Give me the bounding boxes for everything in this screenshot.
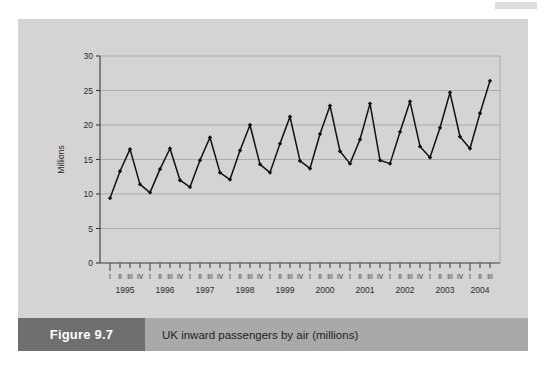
svg-text:I: I	[229, 273, 231, 280]
figure-caption-text-wrap: UK inward passengers by air (millions)	[145, 318, 528, 351]
svg-text:I: I	[389, 273, 391, 280]
svg-text:II: II	[158, 273, 162, 280]
svg-text:I: I	[469, 273, 471, 280]
svg-text:III: III	[327, 273, 333, 280]
svg-text:III: III	[487, 273, 493, 280]
line-chart: 051015202530 IIIIIIIVIIIIIIIVIIIIIIIVIII…	[18, 19, 528, 318]
svg-text:15: 15	[84, 155, 94, 165]
figure-number-block: Figure 9.7	[18, 318, 145, 351]
svg-text:III: III	[287, 273, 293, 280]
scan-artifact	[495, 2, 537, 9]
svg-text:IV: IV	[177, 273, 184, 280]
svg-text:1995: 1995	[116, 285, 135, 295]
figure-caption-bar: Figure 9.7 UK inward passengers by air (…	[18, 318, 528, 351]
x-axis: IIIIIIIVIIIIIIIVIIIIIIIVIIIIIIIVIIIIIIIV…	[100, 263, 500, 295]
svg-text:2003: 2003	[436, 285, 455, 295]
svg-text:III: III	[167, 273, 173, 280]
svg-text:1998: 1998	[236, 285, 255, 295]
svg-text:III: III	[367, 273, 373, 280]
data-series-line	[110, 81, 490, 198]
svg-text:5: 5	[88, 224, 93, 234]
y-axis: 051015202530	[84, 51, 100, 268]
svg-text:II: II	[118, 273, 122, 280]
svg-text:25: 25	[84, 86, 94, 96]
svg-text:III: III	[127, 273, 133, 280]
svg-text:IV: IV	[297, 273, 304, 280]
svg-text:I: I	[109, 273, 111, 280]
figure-number-label: Figure 9.7	[50, 327, 113, 342]
svg-text:10: 10	[84, 189, 94, 199]
svg-text:20: 20	[84, 120, 94, 130]
svg-text:III: III	[407, 273, 413, 280]
svg-text:II: II	[278, 273, 282, 280]
svg-text:IV: IV	[377, 273, 384, 280]
svg-text:IV: IV	[137, 273, 144, 280]
svg-text:IV: IV	[337, 273, 344, 280]
svg-text:2004: 2004	[471, 285, 490, 295]
gridlines	[100, 56, 500, 229]
svg-text:IV: IV	[217, 273, 224, 280]
svg-text:II: II	[438, 273, 442, 280]
figure-panel: 051015202530 IIIIIIIVIIIIIIIVIIIIIIIVIII…	[18, 19, 528, 351]
svg-text:IV: IV	[457, 273, 464, 280]
svg-text:I: I	[189, 273, 191, 280]
svg-text:1999: 1999	[276, 285, 295, 295]
svg-text:II: II	[238, 273, 242, 280]
svg-text:I: I	[309, 273, 311, 280]
figure-caption-text: UK inward passengers by air (millions)	[162, 329, 358, 341]
data-point-markers	[108, 79, 492, 201]
svg-text:II: II	[478, 273, 482, 280]
svg-text:I: I	[149, 273, 151, 280]
svg-text:II: II	[358, 273, 362, 280]
svg-text:2002: 2002	[396, 285, 415, 295]
svg-text:III: III	[247, 273, 253, 280]
svg-text:1996: 1996	[156, 285, 175, 295]
svg-text:2001: 2001	[356, 285, 375, 295]
svg-text:II: II	[398, 273, 402, 280]
svg-text:1997: 1997	[196, 285, 215, 295]
svg-text:I: I	[349, 273, 351, 280]
svg-text:I: I	[429, 273, 431, 280]
svg-text:I: I	[269, 273, 271, 280]
svg-text:II: II	[198, 273, 202, 280]
y-axis-label: Millions	[56, 145, 66, 173]
svg-text:0: 0	[88, 258, 93, 268]
svg-text:IV: IV	[417, 273, 424, 280]
svg-text:III: III	[447, 273, 453, 280]
svg-text:30: 30	[84, 51, 94, 61]
svg-text:III: III	[207, 273, 213, 280]
svg-text:2000: 2000	[316, 285, 335, 295]
chart-plot-area: 051015202530 IIIIIIIVIIIIIIIVIIIIIIIVIII…	[18, 19, 528, 318]
svg-text:II: II	[318, 273, 322, 280]
svg-text:IV: IV	[257, 273, 264, 280]
